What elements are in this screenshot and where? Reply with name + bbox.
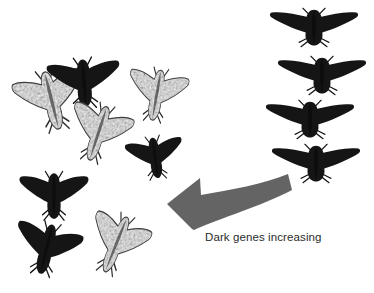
melanic-moth [268, 4, 360, 48]
arrow-caption: Dark genes increasing [205, 230, 322, 245]
melanic-moth [264, 96, 356, 140]
peppered-moth-diagram: Dark genes increasing [0, 0, 374, 293]
dark-genes-increasing-arrow [158, 168, 294, 236]
melanic-moth [276, 52, 368, 96]
